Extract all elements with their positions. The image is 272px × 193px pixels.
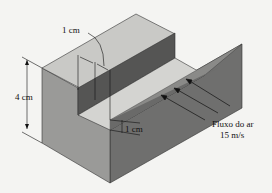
flow-label-line1: Fluxo do ar [212,119,254,129]
flow-label-line2: 15 m/s [220,130,245,140]
depth-label: 1 cm [125,124,143,134]
block-diagram: 1 cm 4 cm 1 cm Fluxo do ar 15 m/s [0,0,272,193]
groove-width-label: 1 cm [62,25,80,35]
height-label: 4 cm [15,92,33,102]
